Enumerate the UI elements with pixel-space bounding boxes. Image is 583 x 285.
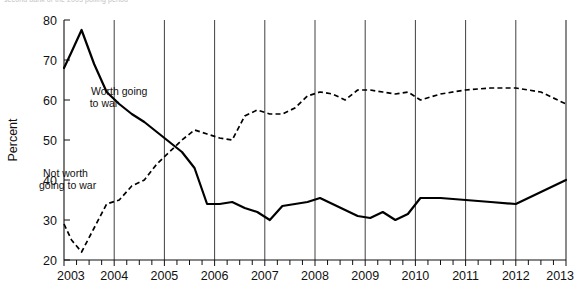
chart-figure: second bank of the 2003 polling period 2…: [0, 0, 583, 285]
y-axis-tick-labels: 20304050607080: [43, 14, 57, 268]
annotation-worth-line2: to war: [90, 97, 119, 109]
y-tick-label-70: 70: [43, 54, 57, 68]
y-tick-label-80: 80: [43, 14, 57, 28]
x-tick-label-2007: 2007: [251, 269, 279, 283]
x-tick-label-2004: 2004: [100, 269, 128, 283]
clipped-header-text: second bank of the 2003 polling period: [4, 0, 128, 3]
x-tick-label-2008: 2008: [301, 269, 329, 283]
annotation-worth-going-to-war: Worth going to war: [90, 85, 148, 109]
annotation-not-worth-going-to-war: Not worth going to war: [39, 167, 97, 191]
x-tick-label-2010: 2010: [401, 269, 429, 283]
x-tick-label-2013: 2013: [546, 269, 574, 283]
x-tick-label-2011: 2011: [452, 269, 479, 283]
y-tick-label-60: 60: [43, 94, 57, 108]
y-tick-label-50: 50: [43, 134, 57, 148]
line-chart: 20304050607080 2003200420052006200720082…: [0, 0, 583, 285]
x-axis-minor-ticks: [64, 260, 566, 266]
annotation-not-worth-line2: going to war: [39, 179, 97, 191]
annotation-worth-line1: Worth going: [91, 85, 148, 97]
y-axis-title: Percent: [6, 118, 20, 162]
annotation-not-worth-line1: Not worth: [43, 167, 88, 179]
x-tick-label-2006: 2006: [201, 269, 229, 283]
vertical-gridlines: [114, 20, 566, 260]
x-tick-label-2003: 2003: [57, 269, 85, 283]
x-tick-label-2009: 2009: [351, 269, 379, 283]
y-tick-label-20: 20: [43, 254, 57, 268]
y-tick-label-30: 30: [43, 214, 57, 228]
x-axis-tick-labels: 2003200420052006200720082009201020112012…: [57, 269, 574, 283]
x-tick-label-2005: 2005: [150, 269, 178, 283]
x-tick-label-2012: 2012: [502, 269, 530, 283]
